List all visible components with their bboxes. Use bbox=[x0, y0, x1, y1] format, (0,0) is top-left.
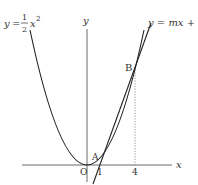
line-equation-label: y = mx + n bbox=[147, 17, 198, 28]
x-axis-label: x bbox=[176, 159, 182, 170]
tick-4-label: 4 bbox=[132, 167, 138, 177]
y-axis-label: y bbox=[82, 15, 89, 26]
parabola-line-diagram: y = 1 2 x 2 y y = mx + n B A O 1 4 x bbox=[0, 0, 198, 185]
svg-text:=: = bbox=[12, 18, 20, 29]
curve-equation-label: y = 1 2 x 2 bbox=[3, 13, 40, 34]
svg-text:y: y bbox=[3, 18, 10, 29]
origin-label: O bbox=[80, 167, 87, 177]
svg-text:2: 2 bbox=[22, 25, 27, 34]
svg-text:1: 1 bbox=[22, 13, 27, 22]
tick-1-label: 1 bbox=[97, 167, 103, 177]
point-b-label: B bbox=[125, 62, 132, 73]
point-a-label: A bbox=[91, 152, 99, 162]
line-mx-n bbox=[93, 23, 151, 184]
svg-text:2: 2 bbox=[36, 15, 40, 23]
